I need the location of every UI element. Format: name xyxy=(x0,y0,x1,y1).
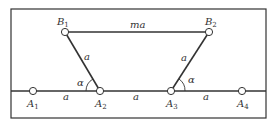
node-a3 xyxy=(167,87,174,94)
node-b1 xyxy=(61,28,68,35)
label-b2: B2 xyxy=(204,16,217,29)
node-a1 xyxy=(29,87,36,94)
node-a4 xyxy=(238,87,245,94)
label-a2: A2 xyxy=(94,98,107,111)
node-b2 xyxy=(205,28,212,35)
angle-arc-a2 xyxy=(86,79,93,91)
label-a1: A1 xyxy=(26,98,39,111)
label-angle-a2: α xyxy=(77,77,84,88)
label-b1: B1 xyxy=(56,16,69,29)
label-angle-a3: α xyxy=(188,74,195,85)
label-segment-b1a2: a xyxy=(84,51,90,62)
node-a2 xyxy=(96,87,103,94)
angle-arc-a3 xyxy=(179,79,185,91)
label-a3: A3 xyxy=(165,98,178,111)
linkage-diagram: B1 B2 A1 A2 A3 A4 ma a a a a a α α xyxy=(0,0,279,124)
label-segment-a3a4: a xyxy=(203,91,209,102)
label-a4: A4 xyxy=(236,98,249,111)
label-segment-a3b2: a xyxy=(181,52,187,63)
label-segment-a2a3: a xyxy=(133,91,139,102)
label-segment-b1b2: ma xyxy=(130,19,145,30)
label-segment-a1a2: a xyxy=(63,91,69,102)
